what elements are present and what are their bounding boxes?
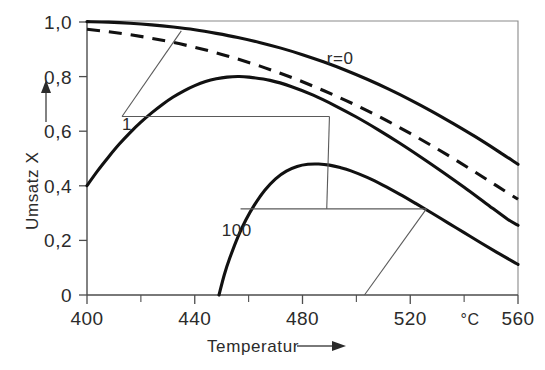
x-axis-arrow [332,341,346,351]
x-tick-label-560: 560 [501,308,534,329]
series-curve-r0 [87,22,518,165]
y-axis-title: Umsatz X [23,152,42,230]
curve-label-1: 1 [122,115,132,134]
series-curve-1 [87,77,518,226]
operating-line-riser-100 [364,209,426,295]
series-group [87,22,518,295]
plot-frame [87,21,518,295]
operating-line-adiabat-100 [327,116,330,208]
y-ticks [79,22,87,295]
y-tick-label-0-2: 0,2 [44,230,72,251]
y-tick-label-0-8: 0,8 [44,67,72,88]
y-tick-label-0: 0 [61,285,72,306]
y-tick-label-1-0: 1,0 [44,12,72,33]
operating-lines-group [122,31,426,295]
x-tick-label-400: 400 [70,308,103,329]
operating-line-adiabat-1 [122,31,181,117]
y-axis-title-group: Umsatz X [23,80,51,230]
x-tick-label-520: 520 [394,308,427,329]
series-curve-100 [219,164,518,295]
x-axis-title-group: Temperatur [207,337,346,356]
curve-label-100: 100 [222,221,252,240]
y-tick-label-0-4: 0,4 [44,176,72,197]
x-axis-title: Temperatur [207,337,299,356]
chart-canvas: 1,0 0,8 0,6 0,4 0,2 0 400 440 480 520 °C… [0,0,545,370]
x-ticks-major [87,295,518,304]
x-axis-unit-label: °C [461,311,480,328]
x-tick-label-440: 440 [178,308,211,329]
y-tick-label-0-6: 0,6 [44,121,72,142]
x-tick-label-480: 480 [286,308,319,329]
chart-root: 1,0 0,8 0,6 0,4 0,2 0 400 440 480 520 °C… [0,0,545,370]
curve-label-r0: r=0 [327,49,354,68]
